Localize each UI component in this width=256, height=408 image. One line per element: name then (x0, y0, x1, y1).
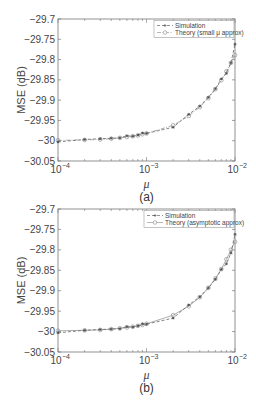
simulation-marker (110, 137, 113, 140)
x-tick-exponent: −2 (239, 162, 247, 169)
x-tick-exponent: −4 (62, 162, 70, 169)
y-tick-label: −29.95 (24, 306, 55, 317)
simulation-marker (118, 136, 121, 139)
simulation-marker (99, 137, 102, 140)
simulation-marker (187, 113, 190, 116)
y-tick-label: −30 (38, 326, 55, 337)
x-tick-exponent: −3 (151, 353, 159, 360)
x-tick-label: 10 (227, 164, 239, 175)
simulation-marker (83, 329, 86, 332)
simulation-marker (172, 126, 175, 129)
simulation-marker (141, 322, 144, 325)
simulation-marker (207, 286, 210, 289)
y-tick-label: −29.9 (30, 285, 56, 296)
simulation-marker (136, 324, 139, 327)
y-tick-label: −29.7 (30, 204, 56, 215)
legend: SimulationTheory (asymptotic approx) (144, 211, 244, 228)
y-tick-label: −29.8 (30, 244, 56, 255)
x-tick-exponent: −3 (151, 162, 159, 169)
x-tick-exponent: −4 (62, 353, 70, 360)
simulation-marker (83, 138, 86, 141)
simulation-marker (125, 325, 128, 328)
y-axis-label: MSE (dB) (15, 66, 27, 114)
y-tick-label: −29.9 (30, 95, 56, 106)
figure: −29.7−29.75−29.8−29.85−29.9−29.95−30−30.… (0, 0, 256, 408)
x-tick-label: 10 (227, 355, 239, 366)
simulation-marker (220, 268, 223, 271)
y-tick-label: −29.75 (24, 34, 55, 45)
simulation-marker (125, 134, 128, 137)
simulation-marker (234, 233, 237, 236)
panel-caption: (a) (139, 190, 154, 204)
simulation-marker (136, 134, 139, 137)
simulation-marker (207, 96, 210, 99)
x-tick-exponent: −2 (239, 353, 247, 360)
simulation-marker (131, 326, 134, 329)
y-axis-label: MSE (dB) (15, 257, 27, 305)
chart-panel-b: −29.7−29.75−29.8−29.85−29.9−29.95−30−30.… (15, 204, 247, 396)
simulation-marker (57, 140, 60, 143)
simulation-marker (214, 278, 217, 281)
legend: SimulationTheory (small μ approx) (154, 21, 244, 38)
simulation-marker (198, 295, 201, 298)
simulation-marker (198, 105, 201, 108)
x-tick-label: 10 (139, 164, 151, 175)
simulation-marker (172, 317, 175, 320)
simulation-marker (220, 78, 223, 81)
y-tick-label: −29.95 (24, 115, 55, 126)
y-tick-label: −29.85 (24, 74, 55, 85)
legend-theory-marker (153, 221, 157, 225)
simulation-marker (145, 132, 148, 135)
x-tick-label: 10 (139, 355, 151, 366)
x-tick-label: 10 (50, 355, 62, 366)
simulation-marker (110, 328, 113, 331)
legend-theory-marker (163, 31, 167, 35)
simulation-marker (229, 61, 232, 64)
simulation-marker (141, 132, 144, 135)
y-tick-label: −29.7 (30, 14, 56, 25)
simulation-marker (225, 72, 228, 75)
simulation-marker (214, 87, 217, 90)
legend-theory-label: Theory (small μ approx) (175, 29, 244, 37)
simulation-marker (57, 331, 60, 334)
simulation-marker (234, 43, 237, 46)
simulation-marker (145, 323, 148, 326)
simulation-marker (118, 327, 121, 330)
x-tick-label: 10 (50, 164, 62, 175)
x-axis-label: μ (142, 368, 149, 382)
x-axis-label: μ (142, 177, 149, 191)
legend-simulation-label: Simulation (175, 22, 206, 29)
simulation-marker (187, 304, 190, 307)
panel-caption: (b) (139, 381, 154, 395)
y-tick-label: −29.75 (24, 224, 55, 235)
legend-simulation-label: Simulation (165, 212, 196, 219)
y-tick-label: −29.8 (30, 54, 56, 65)
legend-theory-label: Theory (asymptotic approx) (165, 219, 244, 227)
simulation-marker (229, 252, 232, 255)
y-tick-label: −30 (38, 135, 55, 146)
simulation-marker (225, 262, 228, 265)
y-tick-label: −29.85 (24, 265, 55, 276)
simulation-marker (99, 328, 102, 331)
simulation-marker (131, 135, 134, 138)
chart-panel-a: −29.7−29.75−29.8−29.85−29.9−29.95−30−30.… (15, 14, 247, 205)
